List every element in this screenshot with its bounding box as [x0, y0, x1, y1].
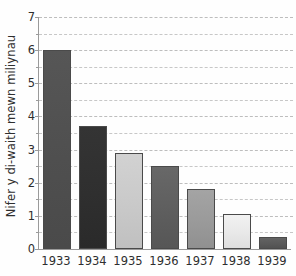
y-axis-tick-label: 2	[28, 176, 35, 190]
x-axis-tick-label: 1937	[182, 254, 218, 268]
x-axis-tick-label: 1939	[254, 254, 290, 268]
y-axis-tick-labels: 01234567	[22, 0, 36, 276]
bar	[79, 126, 108, 249]
y-axis-tick-mark	[35, 150, 39, 151]
y-axis-tick-label: 6	[28, 43, 35, 57]
x-axis-tick-label: 1934	[74, 254, 110, 268]
bar	[259, 237, 288, 249]
y-axis-tick-mark	[35, 50, 39, 51]
y-axis-title: Nifer y di-waith mewn miliynau	[0, 0, 22, 252]
y-axis-tick-label: 1	[28, 209, 35, 223]
bar	[43, 50, 72, 249]
y-axis-tick-mark	[35, 17, 39, 18]
x-axis-tick-label: 1935	[110, 254, 146, 268]
y-axis-tick-mark	[35, 249, 39, 250]
y-axis-minor-tick-mark	[36, 199, 39, 200]
x-axis-tick-label: 1938	[218, 254, 254, 268]
y-axis-minor-tick-mark	[36, 232, 39, 233]
y-axis-tick-label: 7	[28, 10, 35, 24]
y-axis-title-text: Nifer y di-waith mewn miliynau	[4, 35, 18, 217]
y-axis-tick-label: 0	[28, 242, 35, 256]
y-axis-tick-mark	[35, 183, 39, 184]
y-axis-minor-tick-mark	[36, 133, 39, 134]
bar	[187, 189, 216, 249]
x-axis-tick-label: 1933	[38, 254, 74, 268]
x-axis-tick-labels: 1933193419351936193719381939	[38, 252, 290, 274]
y-axis-tick-label: 4	[28, 109, 35, 123]
y-axis-tick-mark	[35, 216, 39, 217]
y-axis-tick-mark	[35, 83, 39, 84]
y-axis-minor-tick-mark	[36, 166, 39, 167]
y-axis-tick-mark	[35, 116, 39, 117]
bar	[151, 166, 180, 249]
x-axis-tick-label: 1936	[146, 254, 182, 268]
plot-area	[38, 17, 291, 250]
y-axis-minor-tick-mark	[36, 34, 39, 35]
y-axis-tick-label: 3	[28, 143, 35, 157]
y-axis-minor-tick-mark	[36, 67, 39, 68]
bar	[115, 153, 144, 249]
bar-chart: Nifer y di-waith mewn miliynau 01234567 …	[0, 0, 296, 276]
bar	[223, 214, 252, 249]
bar-series	[39, 17, 291, 249]
y-axis-minor-tick-mark	[36, 100, 39, 101]
y-axis-tick-label: 5	[28, 76, 35, 90]
